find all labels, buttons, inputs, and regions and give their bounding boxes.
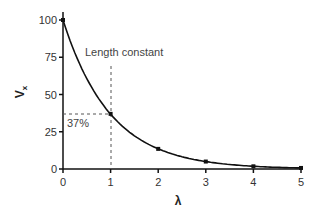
x-ticks: 012345 — [60, 169, 304, 188]
svg-text:75: 75 — [45, 51, 57, 63]
length-constant-label: Length constant — [85, 46, 163, 58]
svg-text:50: 50 — [45, 89, 57, 101]
decay-curve — [63, 20, 301, 168]
svg-text:5: 5 — [298, 176, 304, 188]
svg-text:2: 2 — [155, 176, 161, 188]
data-points — [61, 18, 303, 170]
svg-text:0: 0 — [51, 163, 57, 175]
y-ticks: 0255075100 — [39, 14, 63, 175]
pct-label: 37% — [67, 117, 89, 129]
svg-text:4: 4 — [250, 176, 256, 188]
svg-text:1: 1 — [108, 176, 114, 188]
svg-text:0: 0 — [60, 176, 66, 188]
svg-text:100: 100 — [39, 14, 57, 26]
svg-text:25: 25 — [45, 126, 57, 138]
x-axis-label: λ — [175, 194, 182, 208]
svg-text:Vx: Vx — [13, 85, 29, 98]
chart: 0255075100 012345 Length constant 37% λ … — [0, 0, 320, 217]
svg-text:3: 3 — [203, 176, 209, 188]
y-axis-label: Vx — [13, 85, 29, 98]
